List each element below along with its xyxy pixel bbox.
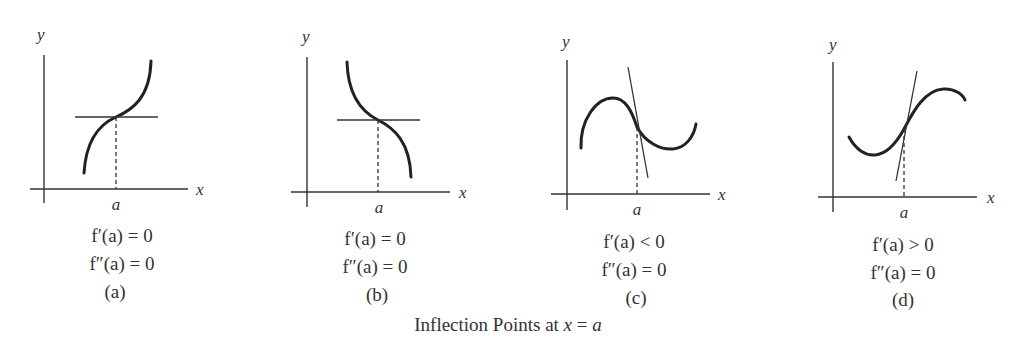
x-axis-label: x <box>195 180 204 199</box>
first-derivative-condition: f′(a) > 0 <box>872 234 933 256</box>
y-axis-label: y <box>300 27 310 46</box>
x-axis-label: x <box>458 183 467 202</box>
tick-label-a: a <box>375 198 384 217</box>
panel-a: y x a f′(a) = 0 f″(a) = 0 (a) <box>30 25 204 303</box>
figure-caption: Inflection Points at x = a <box>414 314 602 335</box>
panel-label: (a) <box>104 281 125 303</box>
panel-c: y x a f′(a) < 0 f″(a) = 0 (c) <box>551 32 726 309</box>
caption-equals: = <box>572 314 592 335</box>
second-derivative-condition: f″(a) = 0 <box>89 253 154 275</box>
inflection-points-figure: y x a f′(a) = 0 f″(a) = 0 (a) y x a f′(a… <box>0 0 1013 341</box>
second-derivative-condition: f″(a) = 0 <box>870 262 935 284</box>
y-axis-label: y <box>560 32 570 51</box>
tick-label-a: a <box>633 200 642 219</box>
x-axis-label: x <box>717 185 726 204</box>
panel-b: y x a f′(a) = 0 f″(a) = 0 (b) <box>291 27 467 306</box>
second-derivative-condition: f″(a) = 0 <box>342 256 407 278</box>
x-axis-label: x <box>986 188 995 207</box>
panel-label: (b) <box>366 284 388 306</box>
y-axis-label: y <box>827 35 837 54</box>
first-derivative-condition: f′(a) = 0 <box>91 225 152 247</box>
tangent-line <box>896 71 917 181</box>
tick-label-a: a <box>900 203 909 222</box>
second-derivative-condition: f″(a) = 0 <box>601 259 666 281</box>
y-axis-label: y <box>35 25 45 44</box>
first-derivative-condition: f′(a) < 0 <box>603 231 664 253</box>
panel-label: (d) <box>892 289 914 311</box>
tick-label-a: a <box>112 195 121 214</box>
panel-label: (c) <box>625 287 646 309</box>
caption-prefix: Inflection Points at <box>414 314 563 335</box>
first-derivative-condition: f′(a) = 0 <box>344 228 405 250</box>
panel-d: y x a f′(a) > 0 f″(a) = 0 (d) <box>818 35 995 311</box>
tangent-line <box>628 67 648 178</box>
caption-value: a <box>592 314 602 335</box>
